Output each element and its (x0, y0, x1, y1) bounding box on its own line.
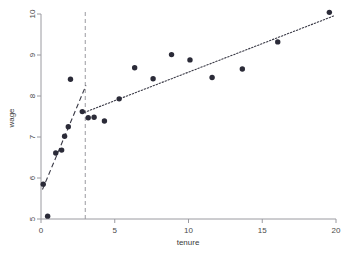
x-tick-label: 15 (258, 226, 267, 235)
y-axis-ticks: 5678910 (28, 9, 41, 221)
scatter-plot-svg: 5678910 05101520 tenure wage (0, 0, 348, 254)
chart-figure: 5678910 05101520 tenure wage (0, 0, 348, 254)
data-point (62, 133, 67, 138)
data-point (86, 115, 91, 120)
x-tick-label: 20 (332, 226, 341, 235)
fitted-segment-high-tenure (85, 16, 335, 113)
data-point (116, 96, 121, 101)
data-point (132, 65, 137, 70)
x-tick-label: 0 (39, 226, 44, 235)
y-tick-label: 6 (28, 175, 37, 180)
x-tick-label: 10 (184, 226, 193, 235)
y-tick-label: 5 (28, 216, 37, 221)
data-point (102, 118, 107, 123)
data-point (275, 39, 280, 44)
x-tick-label: 5 (113, 226, 118, 235)
y-tick-label: 7 (28, 134, 37, 139)
data-point (80, 109, 85, 114)
data-point (53, 150, 58, 155)
data-point (91, 115, 96, 120)
y-axis-title: wage (7, 108, 16, 129)
y-tick-label: 8 (28, 93, 37, 98)
data-point (66, 124, 71, 129)
data-point (59, 147, 64, 152)
data-point (209, 75, 214, 80)
data-point (45, 213, 50, 218)
data-point (327, 10, 332, 15)
y-tick-label: 9 (28, 52, 37, 57)
data-point (41, 181, 46, 186)
data-point (150, 76, 155, 81)
data-point (187, 57, 192, 62)
data-point (240, 66, 245, 71)
data-point (169, 52, 174, 57)
x-axis-title: tenure (177, 238, 200, 247)
data-point (68, 76, 73, 81)
y-tick-label: 10 (28, 9, 37, 18)
data-points-layer (41, 10, 333, 219)
x-axis-ticks: 05101520 (39, 219, 341, 235)
fitted-lines-layer (42, 16, 334, 190)
